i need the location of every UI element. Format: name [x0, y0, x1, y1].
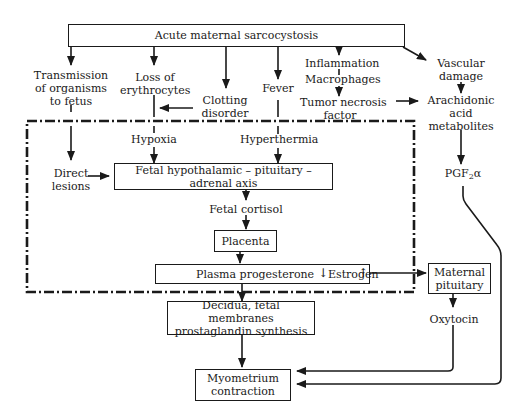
- clotting-line-2: disorder: [195, 107, 255, 120]
- transmission-line-1: Transmission: [30, 69, 112, 82]
- fever-node: Fever: [258, 82, 298, 95]
- myometrium-line-2: contraction: [211, 385, 275, 398]
- placenta-label: Placenta: [221, 235, 269, 248]
- title-label: Acute maternal sarcocystosis: [155, 29, 319, 42]
- vascular-line-1: Vascular: [430, 57, 492, 70]
- decidua-line-1: Decidua, fetal membranes: [168, 299, 314, 325]
- direct-line-1: Direct: [48, 167, 94, 180]
- decidua-line-2: prostaglandin synthesis: [175, 325, 308, 338]
- pgf-label: PGF: [445, 167, 469, 180]
- arachidonic-line-1: Arachidonic: [420, 94, 502, 107]
- vascular-damage-node: Vascular damage: [430, 57, 492, 83]
- pgf2alpha-node: PGF2α: [440, 167, 486, 183]
- tnf-line-2: factor: [300, 109, 380, 122]
- myometrium-contraction-box: Myometrium contraction: [195, 369, 291, 401]
- fetal-hpa-axis-box: Fetal hypothalamic – pituitary – adrenal…: [114, 163, 333, 190]
- tumor-necrosis-factor-node: Tumor necrosis factor: [300, 96, 380, 122]
- loss-line-2: erythrocytes: [120, 84, 190, 97]
- estrogen-label: Estrogen: [328, 268, 379, 281]
- sarcocystosis-pathway-diagram: Acute maternal sarcocystosis Transmissio…: [0, 0, 523, 420]
- transmission-node: Transmission of organisms to fetus: [30, 69, 112, 108]
- arachidonic-line-3: metabolites: [420, 120, 502, 133]
- hyperthermia-node: Hyperthermia: [240, 133, 316, 146]
- transmission-line-3: to fetus: [30, 95, 112, 108]
- plasma-progesterone-estrogen-box: Plasma progesterone ↓ Estrogen ↑: [155, 264, 370, 284]
- pgf-alpha: α: [474, 167, 481, 180]
- tnf-line-1: Tumor necrosis: [300, 96, 380, 109]
- decidua-prostaglandin-box: Decidua, fetal membranes prostaglandin s…: [167, 301, 315, 335]
- transmission-line-2: of organisms: [30, 82, 112, 95]
- myometrium-line-1: Myometrium: [207, 372, 279, 385]
- hypoxia-node: Hypoxia: [124, 133, 184, 146]
- loss-of-erythrocytes-node: Loss of erythrocytes: [120, 71, 190, 97]
- acute-maternal-sarcocystosis-box: Acute maternal sarcocystosis: [68, 24, 405, 47]
- arachidonic-line-2: acid: [420, 107, 502, 120]
- clotting-disorder-node: Clotting disorder: [195, 94, 255, 120]
- fetal-cortisol-node: Fetal cortisol: [206, 203, 286, 216]
- vascular-line-2: damage: [430, 70, 492, 83]
- plasma-progesterone-label: Plasma progesterone: [196, 268, 314, 281]
- inflammation-node: Inflammation: [305, 57, 375, 70]
- clotting-line-1: Clotting: [195, 94, 255, 107]
- loss-line-1: Loss of: [120, 71, 190, 84]
- estrogen-up-arrow-icon: ↑: [358, 267, 368, 280]
- direct-lesions-node: Direct lesions: [48, 167, 94, 193]
- oxytocin-node: Oxytocin: [425, 313, 483, 326]
- maternal-pituitary-box: Maternal pituitary: [428, 263, 491, 294]
- fetal-hpa-axis-label: Fetal hypothalamic – pituitary – adrenal…: [115, 164, 332, 190]
- placenta-box: Placenta: [214, 230, 277, 252]
- maternal-line-1: Maternal: [434, 266, 485, 279]
- macrophages-node: Macrophages: [305, 73, 375, 86]
- direct-line-2: lesions: [48, 180, 94, 193]
- progesterone-down-arrow-icon: ↓: [318, 267, 328, 280]
- arachidonic-acid-node: Arachidonic acid metabolites: [420, 94, 502, 133]
- maternal-line-2: pituitary: [435, 279, 483, 292]
